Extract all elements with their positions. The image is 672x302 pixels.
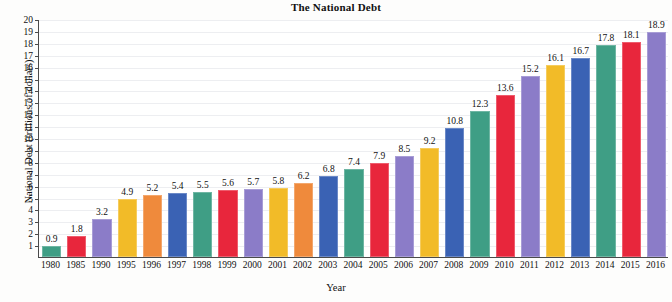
y-tick-label: 13	[24, 98, 34, 108]
y-tick-label: 19	[24, 27, 34, 37]
bar-slot: 5.5	[190, 20, 215, 257]
y-tick-label: 15	[24, 75, 34, 85]
x-tick-label: 2005	[366, 260, 391, 270]
bar-value-label: 7.9	[367, 151, 392, 161]
bar-value-label: 18.9	[644, 20, 669, 30]
bar[interactable]	[118, 199, 137, 257]
bar[interactable]	[244, 189, 263, 257]
bar[interactable]	[193, 192, 212, 257]
bar[interactable]	[344, 169, 363, 257]
bar[interactable]	[67, 236, 86, 257]
bar-value-label: 15.2	[518, 64, 543, 74]
bar-slot: 5.7	[241, 20, 266, 257]
bar-slot: 13.6	[493, 20, 518, 257]
bar[interactable]	[42, 246, 61, 257]
y-tick-label: 2	[28, 229, 33, 239]
x-tick-label: 2003	[315, 260, 340, 270]
bar[interactable]	[218, 190, 237, 257]
bar-slot: 7.4	[341, 20, 366, 257]
bar-slot: 5.6	[215, 20, 240, 257]
bar[interactable]	[395, 156, 414, 257]
bar-slot: 5.2	[140, 20, 165, 257]
bar-value-label: 0.9	[39, 234, 64, 244]
bar-value-label: 18.1	[619, 30, 644, 40]
bar-value-label: 5.8	[266, 176, 291, 186]
bar-slot: 10.8	[442, 20, 467, 257]
x-tick-label: 2000	[240, 260, 265, 270]
x-tick-label: 1997	[164, 260, 189, 270]
bar-value-label: 5.7	[241, 177, 266, 187]
chart-title: The National Debt	[0, 1, 672, 13]
x-tick-label: 2012	[542, 260, 567, 270]
bar[interactable]	[571, 58, 590, 257]
y-tick-label: 3	[28, 217, 33, 227]
x-tick-label: 2001	[265, 260, 290, 270]
y-tick-label: 4	[28, 205, 33, 215]
bar[interactable]	[470, 111, 489, 257]
bar[interactable]	[269, 188, 288, 257]
y-tick-label: 7	[28, 170, 33, 180]
y-tick-label: 1	[28, 241, 33, 251]
bar-value-label: 13.6	[493, 83, 518, 93]
bar-slot: 8.5	[392, 20, 417, 257]
bar[interactable]	[647, 32, 666, 257]
y-tick-label: 17	[24, 51, 34, 61]
x-tick-label: 1996	[139, 260, 164, 270]
bar[interactable]	[546, 65, 565, 257]
x-axis-title: Year	[0, 282, 672, 293]
x-tick-label: 1980	[38, 260, 63, 270]
bar-value-label: 3.2	[89, 207, 114, 217]
bar[interactable]	[596, 45, 615, 257]
bar-slot: 16.1	[543, 20, 568, 257]
bar-slot: 5.4	[165, 20, 190, 257]
x-tick-label: 2007	[416, 260, 441, 270]
bar-slot: 18.1	[619, 20, 644, 257]
x-tick-label: 1995	[114, 260, 139, 270]
bar[interactable]	[143, 195, 162, 257]
x-tick-label: 2008	[441, 260, 466, 270]
bar-value-label: 5.6	[215, 178, 240, 188]
bar[interactable]	[622, 42, 641, 257]
x-tick-label: 2006	[391, 260, 416, 270]
bar-slot: 6.8	[316, 20, 341, 257]
plot-area: 1234567891011121314151617181920 0.91.83.…	[38, 20, 668, 258]
bar-value-label: 10.8	[442, 116, 467, 126]
bar[interactable]	[445, 128, 464, 257]
y-tick-label: 18	[24, 39, 34, 49]
bar-slot: 6.2	[291, 20, 316, 257]
x-tick-label: 2004	[340, 260, 365, 270]
bar-value-label: 17.8	[593, 33, 618, 43]
x-tick-label: 2015	[618, 260, 643, 270]
bar-value-label: 5.2	[140, 183, 165, 193]
bar[interactable]	[370, 163, 389, 257]
bar-value-label: 5.4	[165, 181, 190, 191]
bar[interactable]	[319, 176, 338, 257]
y-tick-label: 5	[28, 194, 33, 204]
bar[interactable]	[92, 219, 111, 257]
bar[interactable]	[521, 76, 540, 257]
y-tick-label: 16	[24, 63, 34, 73]
bar[interactable]	[420, 148, 439, 257]
bar[interactable]	[294, 183, 313, 257]
x-tick-label: 1985	[63, 260, 88, 270]
bar-value-label: 1.8	[64, 224, 89, 234]
bar-value-label: 6.2	[291, 171, 316, 181]
bar[interactable]	[496, 95, 515, 257]
bar-slot: 16.7	[568, 20, 593, 257]
bar-value-label: 12.3	[467, 99, 492, 109]
x-tick-label: 2002	[290, 260, 315, 270]
bar-value-label: 9.2	[417, 136, 442, 146]
y-tick-label: 12	[24, 110, 34, 120]
bar-value-label: 5.5	[190, 180, 215, 190]
bar-series: 0.91.83.24.95.25.45.55.65.75.86.26.87.47…	[39, 20, 668, 257]
bar-value-label: 16.1	[543, 53, 568, 63]
bar-slot: 4.9	[115, 20, 140, 257]
bar-slot: 1.8	[64, 20, 89, 257]
y-tick-label: 11	[24, 122, 33, 132]
x-tick-label: 2014	[592, 260, 617, 270]
bar-slot: 18.9	[644, 20, 669, 257]
bar-slot: 7.9	[367, 20, 392, 257]
x-tick-label: 2016	[643, 260, 668, 270]
bar[interactable]	[168, 193, 187, 257]
y-tick-label: 6	[28, 182, 33, 192]
